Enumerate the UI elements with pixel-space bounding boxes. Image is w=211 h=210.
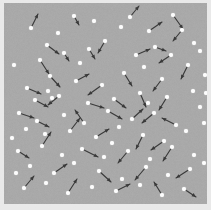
velocity-vector-arrow [173, 15, 183, 29]
velocity-vector-arrow [88, 103, 104, 109]
particle-dot [203, 73, 207, 77]
velocity-vector-arrow [184, 189, 196, 197]
figure-canvas [0, 0, 211, 210]
velocity-vector-arrow [116, 184, 130, 191]
vector-arrowhead-icon [99, 105, 104, 109]
velocity-vector-arrow [27, 88, 41, 94]
vector-arrowhead-icon [29, 115, 34, 119]
velocity-vector-arrow [114, 99, 126, 108]
velocity-vector-arrow [50, 76, 60, 87]
velocity-vector-arrow [136, 49, 150, 55]
velocity-vector-arrow [135, 167, 146, 180]
velocity-vector-arrow [99, 171, 111, 182]
velocity-vector-arrow [37, 121, 49, 127]
velocity-vector-arrow [47, 45, 59, 54]
velocity-vector-arrow [35, 100, 48, 107]
velocity-vector-arrow [140, 93, 146, 107]
velocity-vector-arrow [108, 111, 122, 119]
velocity-vector-arrow [163, 147, 172, 161]
vector-arrows-layer [4, 3, 207, 204]
vector-arrowhead-icon [161, 48, 166, 52]
particle-dot [204, 91, 207, 95]
velocity-vector-arrow [181, 65, 188, 79]
velocity-vector-arrow [82, 149, 98, 157]
velocity-vector-arrow [40, 60, 49, 74]
velocity-vector-arrow [19, 113, 34, 118]
velocity-vector-arrow [136, 135, 143, 149]
velocity-vector-arrow [124, 73, 132, 86]
vector-field-plot-area [4, 3, 207, 204]
